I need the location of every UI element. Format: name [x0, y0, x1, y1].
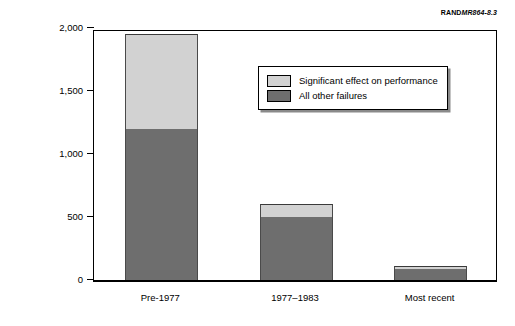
chart-legend: Significant effect on performanceAll oth… [258, 66, 448, 110]
legend-label: All other failures [299, 90, 367, 101]
y-axis-tick-label: 2,000 [59, 22, 83, 33]
y-axis-tick: 1,500 [87, 90, 94, 91]
source-credit-prefix: RAND [441, 9, 462, 16]
x-axis-label: Pre-1977 [90, 292, 230, 303]
y-axis-tick-label: 1,000 [59, 148, 83, 159]
y-axis-tick-label: 500 [67, 211, 83, 222]
y-axis-tick: 500 [87, 216, 94, 217]
bar-segment[interactable] [394, 269, 467, 280]
bar-segment[interactable] [125, 34, 198, 129]
y-axis-tick: 1,000 [87, 153, 94, 154]
bar-segment[interactable] [260, 204, 333, 217]
bar-group[interactable] [394, 266, 467, 280]
legend-item[interactable]: Significant effect on performance [267, 73, 438, 88]
legend-item[interactable]: All other failures [267, 88, 438, 103]
bar-group[interactable] [125, 34, 198, 280]
y-axis-tick: 0 [87, 279, 94, 280]
bar-group[interactable] [260, 204, 333, 280]
legend-label: Significant effect on performance [299, 75, 438, 86]
y-axis-tick-label: 0 [78, 274, 83, 285]
y-axis-tick-label: 1,500 [59, 85, 83, 96]
legend-swatch [267, 90, 291, 102]
x-axis-label: Most recent [360, 292, 500, 303]
y-axis-tick: 2,000 [87, 27, 94, 28]
bar-segment[interactable] [125, 129, 198, 280]
x-axis-label: 1977–1983 [225, 292, 365, 303]
source-credit: RANDMR864-8.3 [441, 9, 497, 16]
legend-swatch [267, 75, 291, 87]
source-credit-code: MR864-8.3 [461, 9, 497, 16]
bar-segment[interactable] [260, 217, 333, 280]
